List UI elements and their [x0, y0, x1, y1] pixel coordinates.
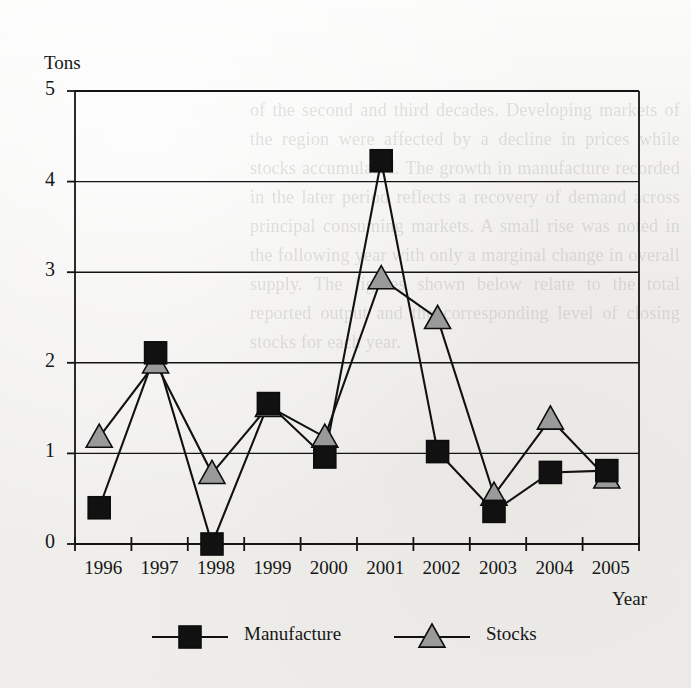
y-tick-label: 4: [33, 168, 55, 191]
y-tick-label: 1: [33, 439, 55, 462]
x-tick-label: 2004: [535, 557, 573, 579]
y-axis-ticks: [67, 91, 75, 544]
y-tick-label: 5: [33, 77, 55, 100]
x-tick-label: 1999: [253, 557, 291, 579]
y-tick-label: 3: [33, 258, 55, 281]
legend-item-label: Manufacture: [244, 623, 341, 645]
series-lines: [99, 161, 607, 544]
x-tick-label: 2000: [310, 557, 348, 579]
legend-item-label: Stocks: [486, 623, 537, 645]
x-tick-label: 1996: [84, 557, 122, 579]
x-tick-label: 1998: [197, 557, 235, 579]
x-tick-label: 1997: [141, 557, 179, 579]
x-tick-label: 2005: [592, 557, 630, 579]
series-markers: [86, 150, 620, 555]
x-tick-label: 2001: [366, 557, 404, 579]
y-tick-label: 0: [33, 530, 55, 553]
y-tick-label: 2: [33, 349, 55, 372]
x-tick-label: 2002: [423, 557, 461, 579]
x-tick-label: 2003: [479, 557, 517, 579]
line-chart: [0, 0, 691, 688]
